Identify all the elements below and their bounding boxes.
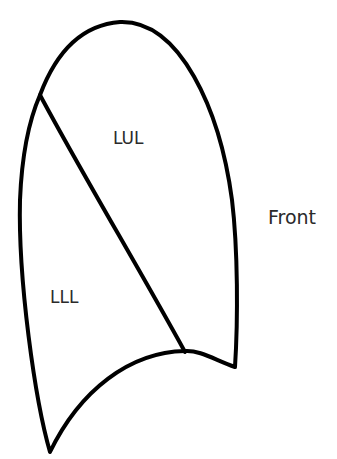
upper-lobe-label: LUL [113, 130, 144, 147]
front-orientation-label: Front [268, 208, 316, 227]
lower-lobe-label: LLL [50, 289, 78, 306]
lung-diagram [0, 0, 337, 459]
lung-outline [20, 22, 237, 452]
